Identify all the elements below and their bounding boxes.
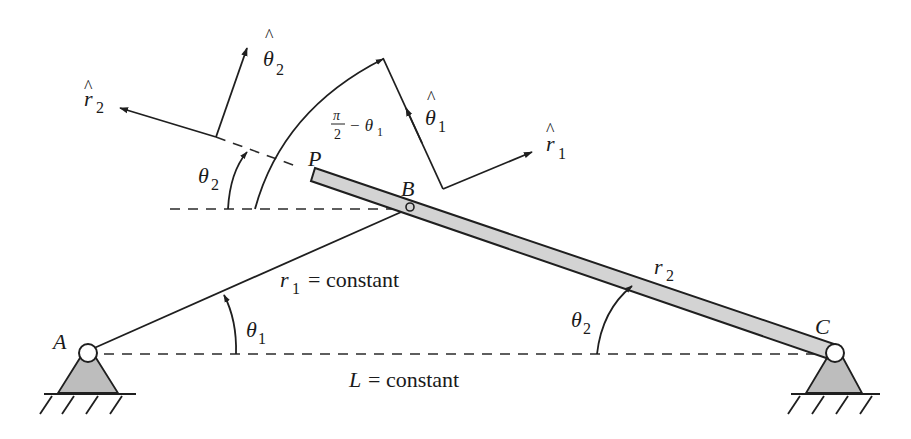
theta1-hat-vector <box>406 108 422 143</box>
svg-text:θ: θ <box>246 317 257 342</box>
theta2-hat-vector <box>216 48 247 137</box>
svg-text:r: r <box>84 86 93 111</box>
label-theta2-hat: ^ θ 2 <box>263 26 284 78</box>
label-point-b: B <box>401 176 414 201</box>
label-r1-hat: ^ r 1 <box>546 120 566 162</box>
svg-text:r: r <box>546 131 555 156</box>
svg-text:2: 2 <box>666 267 674 284</box>
theta1-arc-arrow <box>224 295 236 354</box>
svg-text:− θ: − θ <box>349 116 373 135</box>
svg-text:^: ^ <box>265 26 274 46</box>
label-theta2-at-c: θ 2 <box>571 307 591 337</box>
svg-text:r: r <box>280 267 289 292</box>
mechanism-diagram: A B C P r 1 = constant r 2 L = constant … <box>0 0 911 439</box>
svg-text:2: 2 <box>276 61 284 78</box>
svg-text:= constant: = constant <box>368 367 459 392</box>
ground-support-c <box>788 358 880 414</box>
svg-text:= constant: = constant <box>308 267 399 292</box>
label-point-p: P <box>307 146 321 171</box>
theta2-arc-arrow-c <box>597 286 632 354</box>
label-point-a: A <box>51 329 67 354</box>
pin-b <box>406 203 414 211</box>
svg-text:L: L <box>348 367 361 392</box>
svg-text:2: 2 <box>96 99 104 116</box>
svg-text:2: 2 <box>583 320 591 337</box>
svg-text:2: 2 <box>211 176 219 193</box>
svg-text:θ: θ <box>425 105 436 130</box>
theta2-arc-arrow-p <box>228 152 247 209</box>
label-l-constant: L = constant <box>348 367 459 392</box>
svg-text:1: 1 <box>377 125 383 139</box>
pivot-c <box>826 344 844 362</box>
svg-text:θ: θ <box>263 46 274 71</box>
svg-text:θ: θ <box>198 163 209 188</box>
svg-text:θ: θ <box>571 307 582 332</box>
label-theta2-at-p: θ 2 <box>198 163 219 193</box>
label-r2: r 2 <box>654 254 674 284</box>
r1-hat-vector <box>443 152 532 189</box>
r2-hat-vector <box>120 108 216 137</box>
label-theta1: θ 1 <box>246 317 266 347</box>
svg-text:1: 1 <box>438 118 446 135</box>
label-r2-hat: ^ r 2 <box>84 77 104 116</box>
ground-support-a <box>40 358 136 414</box>
svg-text:1: 1 <box>292 280 300 297</box>
label-point-c: C <box>815 314 830 339</box>
label-r1-constant: r 1 = constant <box>280 267 399 297</box>
svg-text:1: 1 <box>258 330 266 347</box>
label-theta1-hat: ^ θ 1 <box>425 88 446 135</box>
svg-text:r: r <box>654 254 663 279</box>
label-complement-angle: π 2 − θ 1 <box>331 108 383 142</box>
svg-text:2: 2 <box>334 127 341 142</box>
pivot-a <box>79 344 97 362</box>
rod-extension-line <box>216 137 296 166</box>
svg-text:1: 1 <box>558 145 566 162</box>
svg-text:π: π <box>333 108 341 123</box>
